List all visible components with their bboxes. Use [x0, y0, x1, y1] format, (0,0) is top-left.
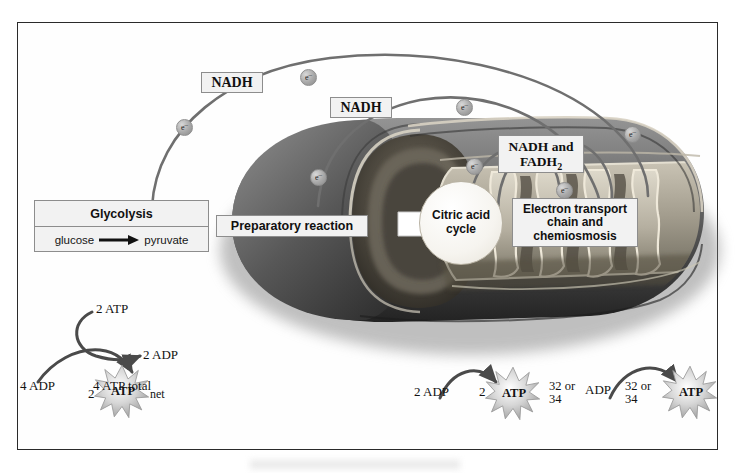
glycolysis-net-atp-label: ATP — [104, 384, 142, 399]
glycolysis-adp-formed: 2 ADP — [143, 347, 178, 363]
nadh-fadh2-line1: NADH and — [499, 139, 583, 154]
label-nadh-prep: NADH — [330, 97, 392, 118]
etc-atp-label: ATP — [673, 385, 709, 400]
glycolysis-title: Glycolysis — [35, 201, 208, 227]
citric-atp-label: ATP — [496, 386, 532, 401]
etc-line2: chain and — [513, 216, 637, 229]
electron-icon: e– — [556, 182, 573, 199]
glycolysis-adp-input: 4 ADP — [20, 378, 55, 394]
label-electron-transport-chain: Electron transport chain and chemiosmosi… — [512, 198, 638, 247]
etc-line3: chemiosmosis — [513, 230, 637, 243]
etc-line1: Electron transport — [513, 203, 637, 216]
citric-acid-cycle-node: Citric acid cycle — [419, 181, 503, 265]
electron-icon: e– — [310, 169, 327, 186]
label-nadh-glycolysis: NADH — [201, 72, 263, 93]
electron-icon: e– — [176, 119, 193, 136]
etc-adp-label: ADP — [585, 382, 611, 398]
electron-icon: e– — [466, 158, 483, 175]
etc-adp-count-line2: 34 — [549, 392, 562, 407]
glycolysis-reactant: glucose — [55, 234, 95, 246]
figure-canvas: e– e– e– e– e– e– e– NADH NADH NADH and … — [0, 0, 736, 473]
citric-adp-input: 2 ADP — [414, 384, 449, 400]
scan-artifact — [250, 460, 460, 469]
glycolysis-box: Glycolysis glucose pyruvate — [34, 200, 209, 252]
reaction-arrow-icon — [98, 235, 140, 245]
electron-icon: e– — [300, 69, 317, 86]
citric-atp-count: 2 — [479, 384, 486, 400]
glycolysis-equation: glucose pyruvate — [35, 227, 208, 252]
glycolysis-net-count: 2 — [88, 386, 95, 402]
citric-acid-line2: cycle — [432, 223, 490, 237]
electron-icon: e– — [624, 126, 641, 143]
nadh-fadh2-line2: FADH2 — [499, 154, 583, 172]
label-preparatory-reaction: Preparatory reaction — [216, 215, 368, 237]
etc-atp-count-line2: 34 — [625, 392, 638, 407]
glycolysis-net-suffix: net — [150, 387, 165, 402]
citric-acid-line1: Citric acid — [432, 209, 490, 223]
glycolysis-atp-used: 2 ATP — [96, 301, 128, 317]
label-nadh-fadh2: NADH and FADH2 — [498, 135, 584, 173]
glycolysis-product: pyruvate — [144, 234, 188, 246]
electron-icon: e– — [456, 99, 473, 116]
